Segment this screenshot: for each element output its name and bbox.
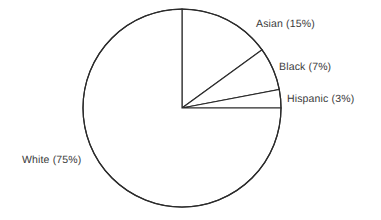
pie-chart-svg <box>0 0 381 220</box>
pie-label-black: Black (7%) <box>279 62 331 73</box>
pie-label-hispanic: Hispanic (3%) <box>287 94 354 105</box>
pie-chart-figure: Asian (15%) Black (7%) Hispanic (3%) Whi… <box>0 0 381 220</box>
pie-slice-group <box>83 9 281 207</box>
pie-label-white: White (75%) <box>22 155 81 166</box>
pie-label-asian: Asian (15%) <box>256 19 315 30</box>
